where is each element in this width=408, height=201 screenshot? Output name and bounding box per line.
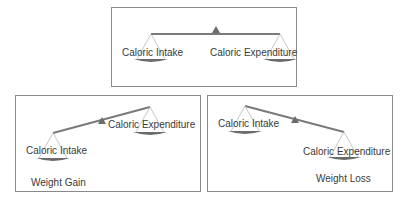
balanced-scale-panel: Caloric Intake Caloric Expenditure xyxy=(111,7,297,87)
right-pan-label: Caloric Expenditure xyxy=(210,48,297,58)
right-pan-label: Caloric Expenditure xyxy=(108,120,195,130)
left-pan-label: Caloric Intake xyxy=(218,119,279,129)
weight-loss-panel: Caloric Intake Caloric Expenditure Weigh… xyxy=(207,95,393,192)
left-pan-label: Caloric Intake xyxy=(122,48,183,58)
weight-gain-panel: Caloric Intake Caloric Expenditure Weigh… xyxy=(15,95,201,192)
result-label: Weight Loss xyxy=(316,174,371,184)
left-pan-label: Caloric Intake xyxy=(26,146,87,156)
result-label: Weight Gain xyxy=(31,178,86,188)
right-pan-label: Caloric Expenditure xyxy=(303,147,390,157)
